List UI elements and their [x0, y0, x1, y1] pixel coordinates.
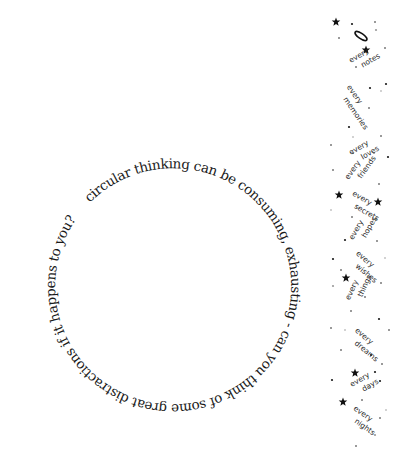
star-icon: [342, 274, 351, 282]
star-dot: [350, 310, 352, 312]
word-pair: everynotes: [347, 42, 382, 73]
star-icon: [339, 398, 348, 406]
star-dot: [380, 282, 382, 284]
star-dot: [375, 29, 377, 31]
halo-icon: [354, 30, 368, 42]
star-dot: [355, 445, 357, 447]
star-dot: [378, 318, 380, 320]
star-dot: [374, 21, 376, 23]
canvas: circular thinking can be consuming, exha…: [0, 0, 403, 454]
star-dot: [332, 285, 334, 287]
circular-text: circular thinking can be consuming, exha…: [42, 155, 304, 417]
circular-text-path: circular thinking can be consuming, exha…: [42, 155, 304, 417]
star-dot: [380, 135, 382, 137]
star-dot: [384, 47, 386, 49]
star-dot: [376, 240, 378, 242]
star-dot: [380, 90, 382, 92]
star-dot: [369, 87, 371, 89]
star-dot: [331, 379, 333, 381]
star-dot: [332, 258, 334, 260]
star-dot: [385, 83, 387, 85]
star-dot: [330, 209, 332, 211]
star-dot: [381, 363, 383, 365]
star-dot: [374, 434, 376, 436]
circular-text-group: circular thinking can be consuming, exha…: [42, 155, 304, 417]
star-dot: [351, 23, 353, 25]
star-dot: [338, 37, 340, 39]
star-icon: [332, 18, 341, 26]
star-dot: [384, 257, 386, 259]
star-dot: [330, 144, 332, 146]
star-dot: [344, 329, 346, 331]
star-dot: [340, 349, 342, 351]
star-dot: [355, 66, 357, 68]
word-pair: everymemories: [337, 83, 379, 131]
star-dot: [379, 417, 381, 419]
star-dot: [351, 216, 353, 218]
star-dot: [388, 329, 390, 331]
star-dot: [387, 156, 389, 158]
star-dot: [378, 183, 380, 185]
star-dot: [368, 107, 370, 109]
star-dot: [374, 371, 376, 373]
star-icon: [335, 191, 344, 199]
star-dot: [352, 136, 354, 138]
word-pair: everynights: [346, 404, 383, 438]
star-dot: [340, 269, 342, 271]
star-dot: [379, 380, 381, 382]
star-icon: [374, 198, 383, 206]
star-dot: [330, 327, 332, 329]
star-dot: [344, 239, 346, 241]
star-dot: [361, 399, 363, 401]
starry-strip: everynoteseverymemorieseveryloveseveryfr…: [330, 18, 390, 447]
word-pair: everysecrets: [346, 189, 386, 223]
word-pair: everydreams: [347, 326, 387, 364]
star-dot: [332, 169, 334, 171]
star-dot: [385, 409, 387, 411]
star-dot: [348, 126, 350, 128]
